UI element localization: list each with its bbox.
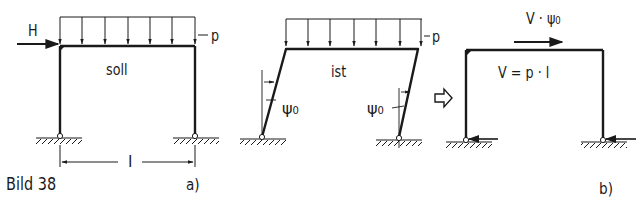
pinned-support-left-b [446,137,498,148]
distributed-load-p-ist [286,19,430,46]
frame-soll [17,17,219,167]
label-load-p: p [211,29,219,44]
frame-equivalent [446,42,636,148]
pinned-support-left-ist [240,134,286,145]
rigid-corner-icon [60,45,66,51]
distributed-load-p [60,17,208,44]
label-span-l: l [128,154,132,170]
label-equivalent-force: V · ψ0 [526,12,561,27]
label-load-p-ist: p [432,30,440,45]
structural-frame-diagram [0,0,638,197]
label-psi0-right: ψ0 [367,101,384,117]
implication-arrow-icon [435,89,452,107]
subfigure-label-a: a) [186,177,200,193]
pinned-support-left [36,133,82,144]
label-ist: ist [331,65,346,80]
label-equation: V = p · l [498,66,549,81]
label-psi0-left: ψ0 [282,101,299,117]
label-soll: soll [106,63,128,78]
subfigure-label-b: b) [599,181,613,197]
pinned-support-right [173,133,219,144]
frame-members-soll [60,46,195,135]
label-horizontal-force: H [28,24,38,39]
figure-caption: Bild 38 [6,176,56,193]
frame-ist [240,19,430,148]
pinned-support-right-ist [376,135,422,146]
pinned-support-right-b [581,137,636,148]
